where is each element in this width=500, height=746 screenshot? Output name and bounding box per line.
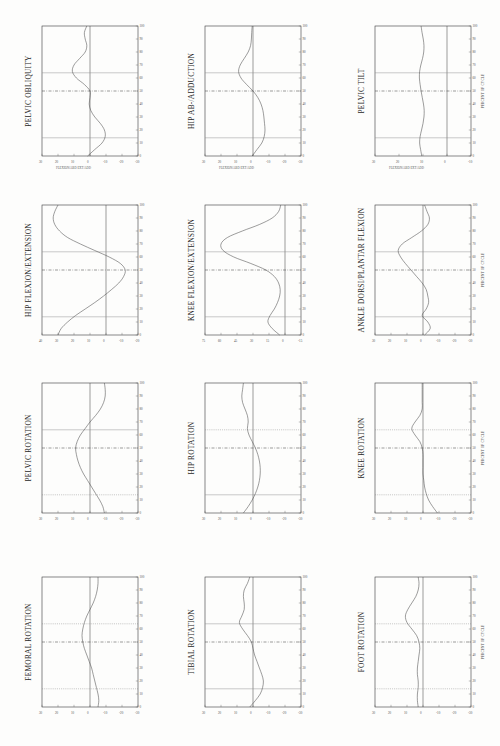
plot-title: TIBIAL ROTATION	[187, 609, 196, 675]
plot-canvas	[42, 205, 138, 335]
cycle-axis-tick-label: 70	[473, 420, 476, 424]
cycle-axis-tick-label: 80	[140, 229, 143, 233]
cycle-axis-tick-label: 30	[473, 115, 476, 119]
value-axis-tick-label: -10	[103, 517, 107, 521]
cycle-axis-tick-label: 80	[303, 229, 306, 233]
cycle-axis-tick-label: 100	[473, 203, 478, 207]
cycle-axis-tick-label: 0	[473, 154, 475, 158]
cycle-axis-tick-label: 0	[473, 705, 475, 709]
value-axis-tick-label: 20	[71, 339, 74, 343]
value-axis-tick-label: 20	[388, 711, 391, 715]
value-axis-tick-label: 0	[103, 339, 105, 343]
value-axis-tick-label: 20	[55, 160, 58, 164]
cycle-axis-tick-label: 10	[140, 692, 143, 696]
cycle-axis-tick-label: 100	[140, 24, 145, 28]
cycle-axis-tick-label: 60	[473, 255, 476, 259]
cycle-axis-tick-label: 70	[140, 420, 143, 424]
value-axis-tick-label: -30	[298, 711, 302, 715]
cycle-axis-tick-label: 60	[303, 433, 306, 437]
cycle-axis-tick-label: 20	[473, 307, 476, 311]
value-axis-tick-label: 10	[234, 517, 237, 521]
cycle-axis-tick-label: 40	[140, 281, 143, 285]
value-axis-tick-label: -10	[436, 517, 440, 521]
plot-cell-foot-rotation: -30-20-1001020300102030405060708090100FO…	[326, 538, 500, 746]
plot-title: FEMORAL ROTATION	[24, 603, 33, 680]
cycle-axis-tick-label: 0	[473, 333, 475, 337]
value-axis-tick-label: 10	[404, 339, 407, 343]
cycle-axis-tick-label: 90	[303, 216, 306, 220]
value-axis-tick-label: 30	[39, 711, 42, 715]
cycle-axis-tick-label: 10	[303, 320, 306, 324]
cycle-axis-tick-label: 50	[140, 640, 143, 644]
cycle-axis-tick-label: 70	[140, 614, 143, 618]
value-axis-tick-label: -10	[266, 711, 270, 715]
cycle-axis-tick-label: 0	[473, 511, 475, 515]
cycle-axis-tick-label: 80	[140, 407, 143, 411]
value-axis-tick-label: 10	[234, 160, 237, 164]
plot-foot-rotation	[375, 577, 471, 707]
value-axis-tick-label: -20	[282, 711, 286, 715]
cycle-axis-tick-label: 90	[473, 588, 476, 592]
value-axis-tick-label: -30	[468, 517, 472, 521]
value-axis-tick-label: 0	[420, 517, 422, 521]
value-axis-direction-label: FLEXION/ABD EXT/ADD	[389, 166, 424, 170]
value-axis-tick-label: -20	[135, 339, 139, 343]
value-axis-tick-label: 30	[202, 711, 205, 715]
cycle-axis-tick-label: 20	[303, 485, 306, 489]
value-axis-tick-label: -10	[119, 339, 123, 343]
plot-femoral-rotation	[42, 577, 138, 707]
cycle-axis-tick-label: 20	[140, 128, 143, 132]
plot-cell-knee-flexion-extension: -15015304560750102030405060708090100KNEE…	[168, 182, 326, 358]
value-axis-tick-label: 0	[250, 160, 252, 164]
cycle-axis-tick-label: 50	[473, 640, 476, 644]
cycle-axis-tick-label: 10	[473, 692, 476, 696]
plot-title: HIP ROTATION	[187, 422, 196, 475]
cycle-axis-tick-label: 0	[140, 705, 142, 709]
value-axis-tick-label: -20	[119, 711, 123, 715]
cycle-axis-tick-label: 50	[303, 268, 306, 272]
cycle-axis-name: PERCENT OF CYCLE	[481, 431, 485, 465]
value-axis-tick-label: -30	[468, 711, 472, 715]
value-axis-tick-label: 15	[266, 339, 269, 343]
cycle-axis-tick-label: 100	[140, 381, 145, 385]
plot-title: KNEE FLEXION/EXTENSION	[187, 219, 196, 321]
value-axis-tick-label: 0	[420, 339, 422, 343]
cycle-axis-tick-label: 100	[473, 381, 478, 385]
cycle-axis-tick-label: 60	[473, 627, 476, 631]
cycle-axis-tick-label: 40	[303, 653, 306, 657]
cycle-axis-tick-label: 30	[140, 115, 143, 119]
cycle-axis-tick-label: 90	[140, 394, 143, 398]
cycle-axis-tick-label: 80	[473, 601, 476, 605]
value-axis-tick-label: 30	[372, 339, 375, 343]
value-axis-tick-label: 20	[218, 711, 221, 715]
plot-title: PELVIC ROTATION	[24, 414, 33, 481]
cycle-axis-tick-label: 60	[473, 433, 476, 437]
value-axis-tick-label: 0	[87, 160, 89, 164]
cycle-axis-tick-label: 50	[473, 446, 476, 450]
value-axis-tick-label: 30	[39, 517, 42, 521]
plot-canvas	[205, 383, 301, 513]
value-axis-tick-label: 0	[250, 517, 252, 521]
value-axis-tick-label: -10	[266, 517, 270, 521]
plot-title: PELVIC OBLIQUITY	[24, 55, 33, 126]
cycle-axis-tick-label: 90	[473, 394, 476, 398]
value-axis-tick-label: -20	[282, 517, 286, 521]
cycle-axis-tick-label: 100	[140, 575, 145, 579]
cycle-axis-tick-label: 30	[140, 294, 143, 298]
value-axis-tick-label: -30	[135, 517, 139, 521]
cycle-axis-tick-label: 80	[303, 601, 306, 605]
value-axis-tick-label: -10	[436, 711, 440, 715]
cycle-axis-tick-label: 10	[140, 498, 143, 502]
plot-canvas	[205, 577, 301, 707]
cycle-axis-tick-label: 70	[140, 63, 143, 67]
plot-title: ANKLE DORSI/PLANTAR FLEXION	[357, 208, 366, 333]
plot-canvas	[205, 205, 301, 335]
value-axis-tick-label: 75	[202, 339, 205, 343]
value-axis-direction-label: FLEXION/ABD EXT/ADD	[56, 166, 91, 170]
cycle-axis-tick-label: 100	[303, 203, 308, 207]
plot-canvas	[375, 205, 471, 335]
cycle-axis-tick-label: 30	[303, 472, 306, 476]
plot-canvas	[375, 383, 471, 513]
plot-tibial-rotation	[205, 577, 301, 707]
plot-cell-hip-rotation: -30-20-1001020300102030405060708090100HI…	[168, 358, 326, 538]
